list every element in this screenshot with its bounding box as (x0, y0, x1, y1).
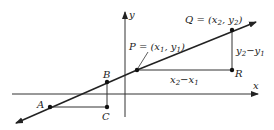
label-q: Q = (x2, y2) (185, 14, 242, 27)
label-r: R (234, 68, 243, 79)
rise-label: y2−y1 (235, 45, 265, 58)
slope-diagram: y x A B C R P = (x1, y1) Q = (x2, y2) x2… (0, 0, 274, 130)
point-c (105, 105, 109, 109)
line-backward (16, 70, 137, 123)
label-c: C (102, 111, 110, 122)
point-r (230, 68, 234, 72)
y-axis-label: y (128, 9, 135, 20)
label-b: B (102, 69, 110, 80)
point-a (48, 105, 52, 109)
point-q (230, 28, 234, 32)
label-p: P = (x1, y1) (128, 41, 185, 54)
x-axis-label: x (253, 80, 259, 91)
label-a: A (36, 99, 44, 110)
run-label: x2−x1 (170, 74, 199, 87)
point-p (135, 68, 139, 72)
point-b (105, 80, 109, 84)
